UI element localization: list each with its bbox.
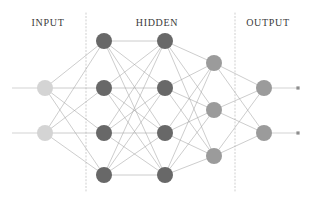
edge-h2-2-h3-2 [165, 88, 214, 110]
edge-h3-1-o1 [214, 63, 264, 88]
layer-label-input: INPUT [32, 17, 65, 28]
neural-network-canvas [0, 0, 311, 201]
edge-h2-3-h3-3 [165, 133, 214, 156]
layer-label-hidden: HIDDEN [136, 17, 179, 28]
node-i2[interactable] [37, 125, 53, 141]
edge-h3-3-o2 [214, 133, 264, 156]
node-h2-4[interactable] [157, 167, 173, 183]
node-h1-4[interactable] [96, 167, 112, 183]
layer-label-output: OUTPUT [246, 17, 290, 28]
edge-h2-3-h3-2 [165, 110, 214, 133]
connection-edges [45, 41, 264, 175]
edge-h2-1-h3-1 [165, 41, 214, 63]
edge-i2-h1-1 [45, 41, 104, 133]
edge-i1-h1-1 [45, 41, 104, 88]
node-h1-3[interactable] [96, 125, 112, 141]
edge-h2-2-h3-1 [165, 63, 214, 88]
output-arrow-1-head [296, 86, 299, 89]
node-h2-3[interactable] [157, 125, 173, 141]
node-h3-1[interactable] [206, 55, 222, 71]
edge-h3-2-o2 [214, 110, 264, 133]
node-h1-1[interactable] [96, 33, 112, 49]
edge-h3-2-o1 [214, 88, 264, 110]
node-h1-2[interactable] [96, 80, 112, 96]
edge-i2-h1-4 [45, 133, 104, 175]
io-arrows [12, 86, 300, 134]
node-h3-2[interactable] [206, 102, 222, 118]
node-o2[interactable] [256, 125, 272, 141]
edge-i1-h1-4 [45, 88, 104, 175]
node-i1[interactable] [37, 80, 53, 96]
node-h3-3[interactable] [206, 148, 222, 164]
output-arrow-2-head [296, 131, 299, 134]
node-o1[interactable] [256, 80, 272, 96]
neural-network-diagram: INPUTHIDDENOUTPUT [0, 0, 311, 201]
node-h2-2[interactable] [157, 80, 173, 96]
node-h2-1[interactable] [157, 33, 173, 49]
